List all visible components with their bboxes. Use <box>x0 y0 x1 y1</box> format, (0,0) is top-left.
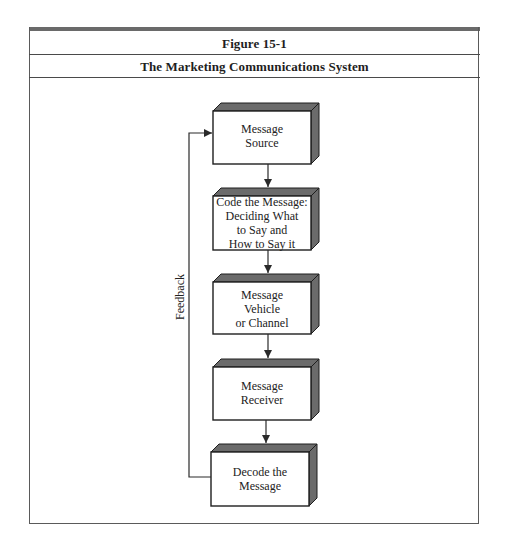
feedback-label: Feedback <box>173 274 188 320</box>
label-decode-message: Decode the Message <box>211 465 309 493</box>
label-line: Decode the <box>211 465 309 479</box>
label-message-source: Message Source <box>213 122 311 150</box>
label-line: Deciding What <box>211 209 313 223</box>
label-line: or Channel <box>213 316 311 330</box>
label-line: Receiver <box>213 393 311 407</box>
label-line: How to Say it <box>211 237 313 251</box>
label-message-receiver: Message Receiver <box>213 379 311 407</box>
label-line: Code the Message: <box>211 195 313 209</box>
label-line: Message <box>213 122 311 136</box>
label-line: Message <box>213 288 311 302</box>
label-line: Message <box>213 379 311 393</box>
feedback-arrow <box>189 133 212 477</box>
label-line: Message <box>211 479 309 493</box>
label-message-vehicle: Message Vehicle or Channel <box>213 288 311 330</box>
label-line: Source <box>213 136 311 150</box>
label-code-message: Code the Message: Deciding What to Say a… <box>211 195 313 251</box>
label-line: Vehicle <box>213 302 311 316</box>
label-line: to Say and <box>211 223 313 237</box>
